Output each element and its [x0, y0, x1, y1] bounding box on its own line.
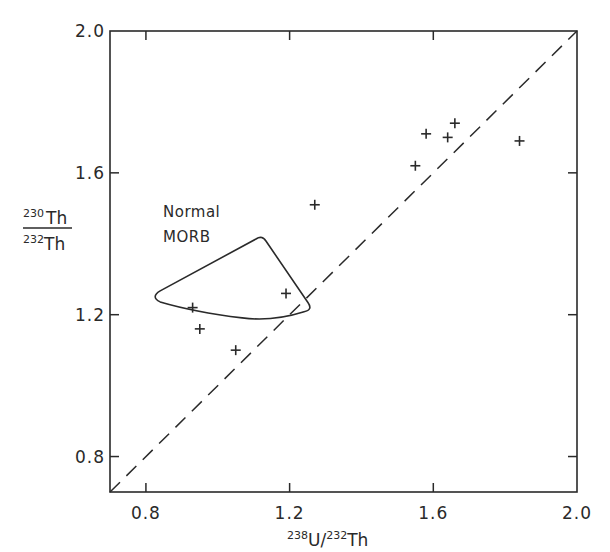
- x-tick-label: 2.0: [562, 503, 592, 523]
- x-tick-label: 1.2: [275, 503, 305, 523]
- svg-text:230Th: 230Th: [23, 207, 67, 228]
- y-tick-label: 2.0: [75, 21, 105, 41]
- x-tick-label: 1.6: [418, 503, 448, 523]
- data-point-plus-marker: [421, 129, 431, 139]
- data-point-plus-marker: [450, 118, 460, 128]
- equiline: [110, 31, 577, 492]
- data-point-plus-marker: [443, 132, 453, 142]
- x-axis-label: 238U/232Th: [287, 529, 368, 550]
- data-point-plus-marker: [281, 288, 291, 298]
- y-tick-label: 1.2: [75, 305, 105, 325]
- y-tick-label: 1.6: [75, 163, 105, 183]
- data-points: [188, 118, 525, 355]
- data-point-plus-marker: [195, 324, 205, 334]
- axis-tick-labels: 0.81.21.62.00.81.21.62.0: [75, 21, 592, 523]
- data-point-plus-marker: [410, 161, 420, 171]
- morb-field-outline: [155, 237, 310, 319]
- morb-field-label: MORB: [163, 228, 210, 246]
- data-point-plus-marker: [231, 345, 241, 355]
- morb-field-region: NormalMORB: [155, 203, 310, 319]
- equiline-dashed: [110, 31, 577, 492]
- morb-field-label: Normal: [163, 203, 220, 221]
- data-point-plus-marker: [515, 136, 525, 146]
- scatter-chart: NormalMORB 0.81.21.62.00.81.21.62.0 238U…: [0, 0, 610, 552]
- svg-text:232Th: 232Th: [23, 233, 65, 254]
- x-tick-label: 0.8: [131, 503, 161, 523]
- y-axis-label: 230Th 232Th: [23, 207, 72, 254]
- data-point-plus-marker: [310, 200, 320, 210]
- y-tick-label: 0.8: [75, 447, 105, 467]
